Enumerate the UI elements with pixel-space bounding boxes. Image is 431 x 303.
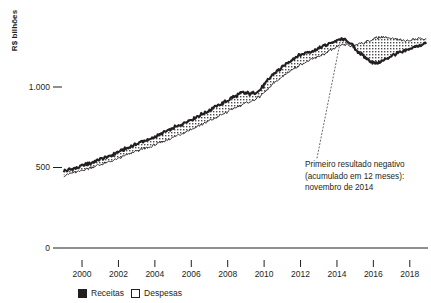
annotation-line-2: (acumulado em 12 meses): <box>305 171 429 183</box>
x-axis-tick-label-6: 2012 <box>281 269 321 279</box>
annotation-leader-line <box>317 46 340 159</box>
x-axis-tick-label-3: 2006 <box>171 269 211 279</box>
y-axis-tick-label-1: 500 <box>0 162 50 172</box>
annotation-text: Primeiro resultado negativo (acumulado e… <box>305 159 429 194</box>
x-axis-tick-label-9: 2018 <box>390 269 430 279</box>
legend-item-despesas[interactable]: Despesas <box>131 288 182 298</box>
chart-legend: ReceitasDespesas <box>78 288 182 298</box>
x-axis-tick-label-0: 2000 <box>62 269 102 279</box>
legend-swatch-icon <box>78 289 87 298</box>
x-axis-tick-label-2: 2004 <box>135 269 175 279</box>
y-axis-title: R$ bilhões <box>10 1 19 61</box>
x-axis-tick-label-8: 2016 <box>353 269 393 279</box>
chart-plot-area <box>0 0 431 303</box>
y-axis-tick-label-2: 0 <box>0 243 50 253</box>
x-axis-tick-label-4: 2008 <box>208 269 248 279</box>
series-band-receitas-despesas <box>64 36 426 177</box>
x-axis-tick-label-5: 2010 <box>244 269 284 279</box>
x-axis-tick-label-1: 2002 <box>98 269 138 279</box>
annotation-line-3: novembro de 2014 <box>305 182 429 194</box>
legend-swatch-icon <box>131 289 140 298</box>
legend-item-receitas[interactable]: Receitas <box>78 288 124 298</box>
annotation-line-1: Primeiro resultado negativo <box>305 159 429 171</box>
legend-label: Despesas <box>144 288 182 298</box>
chart-container: R$ bilhões 1.0005000 2000200220042006200… <box>0 0 431 303</box>
legend-label: Receitas <box>91 288 124 298</box>
y-axis-tick-label-0: 1.000 <box>0 82 50 92</box>
x-axis-tick-label-7: 2014 <box>317 269 357 279</box>
